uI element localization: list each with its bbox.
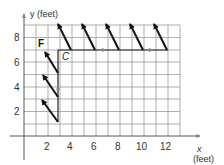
y-tick-8: 8	[14, 32, 20, 43]
force-label: F	[38, 38, 44, 49]
x-tick-2: 2	[44, 141, 50, 152]
path-label: C	[62, 51, 70, 62]
x-axis-unit-label: (feet)	[193, 154, 214, 164]
force-vectors	[42, 24, 167, 122]
work-path-diagram: y (feet) x (feet) 2 4 6 8 10 12 2 4 6 8 …	[0, 0, 224, 165]
x-axis-var-label: x	[196, 144, 202, 154]
x-tick-8: 8	[115, 141, 121, 152]
y-tick-6: 6	[14, 57, 20, 68]
y-tick-4: 4	[14, 82, 20, 93]
y-tick-2: 2	[14, 106, 20, 117]
x-tick-12: 12	[160, 141, 172, 152]
y-axis-label: y (feet)	[30, 9, 58, 19]
x-tick-10: 10	[136, 141, 148, 152]
x-tick-6: 6	[91, 141, 97, 152]
x-tick-4: 4	[67, 141, 73, 152]
